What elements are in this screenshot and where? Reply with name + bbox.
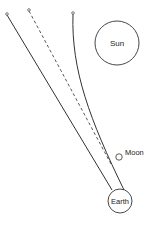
moon-label: Moon: [125, 148, 144, 157]
straight-light-path: [7, 15, 112, 190]
earth: Earth: [108, 189, 132, 213]
earth-label: Earth: [111, 197, 129, 206]
straight-source-marker: [6, 13, 9, 16]
moon: Moon: [116, 148, 144, 160]
sun: Sun: [95, 21, 139, 65]
curved-source-marker: [72, 12, 75, 15]
moon-circle: [116, 154, 122, 160]
dashed-apparent-path: [29, 11, 111, 164]
dashed-source-marker: [28, 9, 31, 12]
light-deflection-diagram: Sun Moon Earth: [0, 0, 156, 229]
sun-label: Sun: [110, 39, 124, 48]
